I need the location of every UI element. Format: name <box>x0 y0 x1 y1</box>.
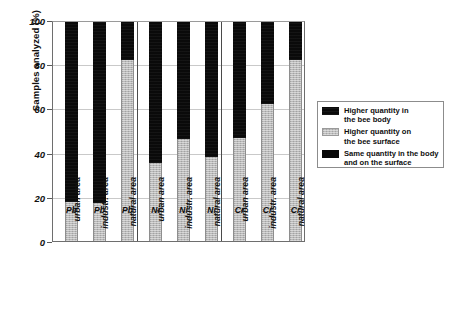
legend-label-line2: the bee body <box>344 115 409 124</box>
bar-element-label: Ni <box>205 205 218 215</box>
legend-item-higher-in-body: Higher quantity in the bee body <box>322 106 440 124</box>
plot-area: Pb Pb Pb Ni Ni Ni <box>52 21 305 242</box>
legend-label-line2: the bee surface <box>344 137 411 146</box>
legend-swatch-same-icon <box>322 150 339 158</box>
legend-label-line1: Same quantity in the body <box>344 149 439 158</box>
segment-body <box>261 22 274 104</box>
bar-element-label: Pb <box>93 205 106 215</box>
chart-legend: Higher quantity in the bee body Higher q… <box>317 101 444 168</box>
segment-body <box>65 22 78 202</box>
legend-label-line1: Higher quantity in <box>344 106 409 115</box>
bar-element-label: Cr <box>289 205 302 215</box>
legend-item-same-quantity: Same quantity in the body and on the sur… <box>322 149 440 167</box>
y-tick-label-20: 20 <box>34 192 45 203</box>
segment-body <box>289 22 302 60</box>
segment-body <box>121 22 134 60</box>
y-tick-label-40: 40 <box>34 148 45 159</box>
y-tick-label-80: 80 <box>34 60 45 71</box>
bar-element-label: Pb <box>65 205 78 215</box>
segment-body <box>205 22 218 157</box>
legend-item-higher-on-surface: Higher quantity on the bee surface <box>322 127 440 145</box>
bar-element-label: Cr <box>261 205 274 215</box>
legend-label-higher-in-body: Higher quantity in the bee body <box>344 106 409 124</box>
bar-element-label: Pb <box>121 205 134 215</box>
y-tick-label-100: 100 <box>29 16 45 27</box>
legend-swatch-surface-icon <box>322 128 339 136</box>
bar-element-label: Cr <box>233 205 246 215</box>
legend-label-same-quantity: Same quantity in the body and on the sur… <box>344 149 439 167</box>
y-axis-ticks: 100 80 60 40 20 0 <box>0 21 52 242</box>
segment-body <box>177 22 190 139</box>
legend-label-line1: Higher quantity on <box>344 127 411 136</box>
segment-body <box>93 22 106 203</box>
segment-body <box>233 22 246 138</box>
legend-label-higher-on-surface: Higher quantity on the bee surface <box>344 127 411 145</box>
legend-swatch-body-icon <box>322 107 339 115</box>
chart-figure: Samples analyzed (%) 100 80 60 40 20 0 P… <box>0 0 450 315</box>
bar-element-label: Ni <box>177 205 190 215</box>
legend-label-line2: and on the surface <box>344 158 439 167</box>
y-tick-label-60: 60 <box>34 104 45 115</box>
bar-element-label: Ni <box>149 205 162 215</box>
segment-body <box>149 22 162 163</box>
y-tick-label-0: 0 <box>40 237 45 248</box>
